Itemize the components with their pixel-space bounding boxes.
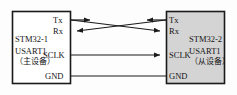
slave-role-label: （从设备） [190,58,230,66]
slave-pin-label-rx: Rx [169,27,179,36]
master-pin-label-rx: Rx [53,27,63,36]
slave-peripheral-name: USART1 [189,47,221,56]
master-role-label: （主设备） [15,58,55,66]
master-pin-label-tx: Tx [53,16,62,25]
master-device-name: STM32-1 [15,35,48,44]
diagram-canvas: Tx Rx SCLK GND STM32-1 USART1 （主设备） Tx R… [0,0,237,95]
slave-pin-label-tx: Tx [169,16,178,25]
slave-device-name: STM32-2 [189,35,222,44]
slave-pin-label-sclk: SCLK [169,51,191,60]
master-pin-label-gnd: GND [45,72,63,81]
master-peripheral-name: USART1 [15,47,47,56]
slave-pin-label-gnd: GND [169,72,187,81]
wire-master-tx-to-slave-rx [71,20,160,31]
wire-slave-tx-to-master-rx [77,20,166,31]
